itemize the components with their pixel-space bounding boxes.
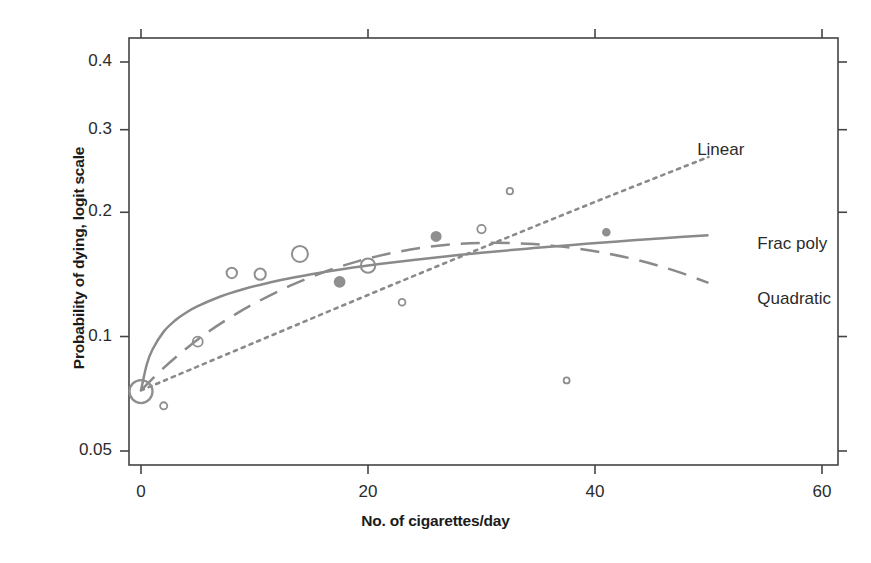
xtick-label-1: 20 — [333, 482, 403, 502]
chart-figure: 0.05 0.1 0.2 0.3 0.4 0 20 40 60 Linear F… — [0, 0, 871, 563]
data-point — [160, 402, 167, 409]
xtick-label-3: 60 — [787, 482, 857, 502]
y-axis-title: Probability of dying, logit scale — [70, 147, 88, 370]
data-point — [292, 246, 308, 262]
data-point — [399, 299, 406, 306]
data-point — [507, 188, 513, 194]
data-point — [432, 232, 441, 241]
curve-label-frac-poly: Frac poly — [757, 234, 827, 254]
data-point — [227, 268, 237, 278]
curve-quadratic — [141, 243, 709, 391]
data-point — [255, 269, 266, 280]
x-axis-title: No. of cigarettes/day — [0, 512, 871, 530]
data-point — [477, 225, 485, 233]
data-points — [130, 188, 610, 410]
data-point — [564, 377, 570, 383]
xtick-label-0: 0 — [106, 482, 176, 502]
curve-label-linear: Linear — [697, 140, 744, 160]
xtick-label-2: 40 — [560, 482, 630, 502]
data-point — [335, 277, 345, 287]
y-axis-title-wrapper: Probability of dying, logit scale — [70, 48, 94, 468]
data-point — [603, 229, 610, 236]
plot-canvas — [0, 0, 871, 563]
curve-frac-poly — [141, 235, 709, 390]
curve-label-quadratic: Quadratic — [757, 289, 831, 309]
